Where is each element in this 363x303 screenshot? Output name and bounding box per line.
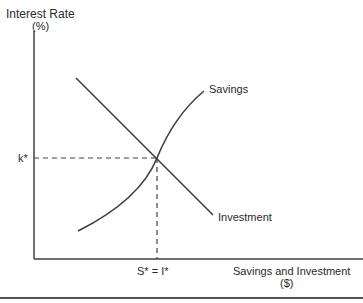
chart-canvas xyxy=(0,0,363,303)
y-axis-unit: (%) xyxy=(32,20,49,33)
x-axis-unit: ($) xyxy=(280,277,293,290)
investment-curve xyxy=(76,78,213,215)
savings-label: Savings xyxy=(209,83,248,96)
investment-label: Investment xyxy=(218,211,272,224)
savings-curve xyxy=(78,91,204,231)
k-star-label: k* xyxy=(18,152,28,165)
equilibrium-label: S* = I* xyxy=(137,265,169,278)
